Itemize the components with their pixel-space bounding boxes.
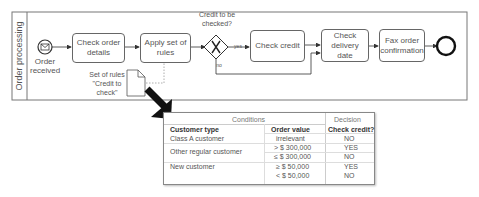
col-check-credit: Check credit? bbox=[328, 126, 374, 133]
task-check-credit[interactable]: Check credit bbox=[250, 30, 305, 62]
table-cell: < $ 50,000 bbox=[276, 172, 309, 179]
table-cell: YES bbox=[344, 163, 358, 170]
task-fax-order-confirmation[interactable]: Fax order confirmation bbox=[379, 29, 425, 62]
table-cell: ≤ $ 300,000 bbox=[274, 153, 311, 160]
table-cell: > $ 300,000 bbox=[274, 144, 311, 151]
gateway-no-label: no bbox=[214, 61, 224, 70]
task-check-delivery-date[interactable]: Check delivery date bbox=[321, 29, 369, 62]
table-cell: YES bbox=[344, 144, 358, 151]
task-check-order-details[interactable]: Check order details bbox=[72, 33, 125, 63]
data-object-icon bbox=[127, 70, 145, 96]
table-cell: NO bbox=[344, 153, 355, 160]
task-apply-set-of-rules[interactable]: Apply set of rules bbox=[140, 33, 191, 63]
table-cell: New customer bbox=[170, 163, 215, 170]
table-cell: Other regular customer bbox=[170, 148, 242, 155]
gateway-question: Credit to be checked? bbox=[197, 10, 237, 28]
end-event bbox=[437, 37, 455, 55]
decision-table: Conditions Decision Customer type Order … bbox=[163, 112, 375, 185]
gateway-yes-label: yes bbox=[232, 42, 244, 51]
col-customer-type: Customer type bbox=[170, 126, 219, 133]
decision-header: Decision bbox=[334, 116, 361, 123]
table-cell: NO bbox=[344, 172, 355, 179]
table-cell: irrelevant bbox=[276, 135, 305, 142]
start-event-label: Order received bbox=[30, 57, 60, 75]
conditions-header: Conditions bbox=[232, 116, 265, 123]
col-order-value: Order value bbox=[271, 126, 310, 133]
table-cell: Class A customer bbox=[170, 135, 224, 142]
table-cell: NO bbox=[344, 135, 355, 142]
data-object-label: Set of rules "Credit to check" bbox=[86, 70, 128, 97]
lane-label: Order processing bbox=[12, 12, 26, 100]
table-cell: ≥ $ 50,000 bbox=[276, 163, 309, 170]
